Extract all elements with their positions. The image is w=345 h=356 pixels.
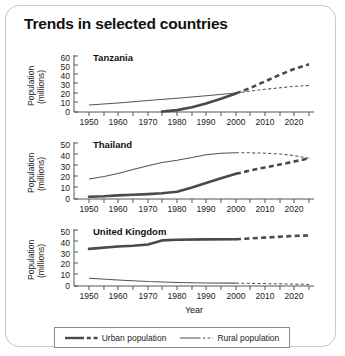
x-tick-1960: 1960 — [109, 291, 128, 301]
y-tick-10: 10 — [61, 270, 71, 280]
x-ticks — [89, 286, 309, 290]
y-tick-50: 50 — [61, 227, 71, 237]
legend-label-rural: Rural population — [217, 333, 279, 343]
y-tick-0: 0 — [65, 107, 70, 117]
x-tick-2010: 2010 — [256, 204, 275, 214]
x-tick-2000: 2000 — [227, 117, 246, 127]
y-tick-30: 30 — [61, 249, 71, 259]
legend-swatch-urban-icon — [65, 334, 99, 342]
x-tick-1980: 1980 — [168, 291, 187, 301]
legend-swatch-rural-icon — [180, 334, 214, 342]
y-tick-20: 20 — [61, 259, 71, 269]
x-tick-1970: 1970 — [139, 204, 158, 214]
series-urban-dash — [236, 236, 309, 240]
y-axis-label-line1: Population — [26, 153, 36, 193]
panel-united-kingdom: Population (millions) 50 40 30 20 10 0 — [6, 224, 337, 316]
series-rural-solid — [89, 93, 236, 105]
x-tick-2000: 2000 — [227, 204, 246, 214]
x-tick-2020: 2020 — [285, 291, 304, 301]
series-rural-solid — [89, 278, 236, 283]
y-axis-label-line2: (millions) — [36, 244, 46, 278]
panel-tanzania: Population (millions) 60 50 40 30 20 10 … — [6, 50, 337, 128]
series-urban-dash — [236, 64, 309, 93]
series-urban-solid — [89, 239, 236, 249]
chart-legend: Urban population Rural population — [54, 327, 290, 348]
x-tick-1990: 1990 — [197, 291, 216, 301]
legend-label-urban: Urban population — [102, 333, 167, 343]
panel-title-thailand: Thailand — [93, 139, 132, 150]
series-urban-dash — [236, 158, 309, 174]
y-tick-0: 0 — [65, 281, 70, 291]
y-tick-30: 30 — [61, 162, 71, 172]
x-tick-2020: 2020 — [285, 117, 304, 127]
x-tick-2020: 2020 — [285, 204, 304, 214]
y-tick-50: 50 — [61, 140, 71, 150]
panel-title-uk: United Kingdom — [93, 226, 166, 237]
y-axis-label-line2: (millions) — [36, 70, 46, 104]
x-tick-1980: 1980 — [168, 204, 187, 214]
page-title: Trends in selected countries — [24, 15, 228, 33]
x-tick-1970: 1970 — [139, 117, 158, 127]
x-tick-2010: 2010 — [256, 117, 275, 127]
x-axis-label: Year — [185, 305, 203, 315]
axes — [74, 142, 314, 199]
x-tick-2010: 2010 — [256, 291, 275, 301]
series-rural-dash — [236, 283, 309, 284]
x-tick-1950: 1950 — [80, 291, 99, 301]
x-tick-1980: 1980 — [168, 117, 187, 127]
y-tick-10: 10 — [61, 183, 71, 193]
y-axis-label-line2: (millions) — [36, 157, 46, 191]
series-rural-solid — [89, 153, 236, 179]
series-urban-solid — [89, 174, 236, 197]
panel-thailand: Population (millions) 50 40 30 20 10 0 — [6, 137, 337, 215]
x-tick-1990: 1990 — [197, 117, 216, 127]
chart-card: Trends in selected countries Population … — [5, 5, 336, 347]
y-axis-label-line1: Population — [26, 240, 36, 280]
x-tick-1970: 1970 — [139, 291, 158, 301]
x-tick-1950: 1950 — [80, 117, 99, 127]
x-ticks — [89, 112, 309, 116]
y-axis-label-line1: Population — [26, 66, 36, 106]
x-tick-1960: 1960 — [109, 117, 128, 127]
y-ticks — [74, 230, 78, 286]
x-tick-2000: 2000 — [227, 291, 246, 301]
y-ticks — [74, 143, 78, 199]
y-tick-20: 20 — [61, 172, 71, 182]
y-ticks — [74, 56, 78, 112]
panel-title-tanzania: Tanzania — [93, 52, 134, 63]
x-ticks — [89, 199, 309, 203]
x-tick-1990: 1990 — [197, 204, 216, 214]
series-rural-dash — [236, 153, 309, 159]
legend-item-rural: Rural population — [180, 333, 279, 343]
legend-item-urban: Urban population — [65, 333, 167, 343]
y-tick-40: 40 — [61, 238, 71, 248]
y-tick-0: 0 — [65, 194, 70, 204]
x-tick-1960: 1960 — [109, 204, 128, 214]
y-tick-40: 40 — [61, 151, 71, 161]
x-tick-1950: 1950 — [80, 204, 99, 214]
